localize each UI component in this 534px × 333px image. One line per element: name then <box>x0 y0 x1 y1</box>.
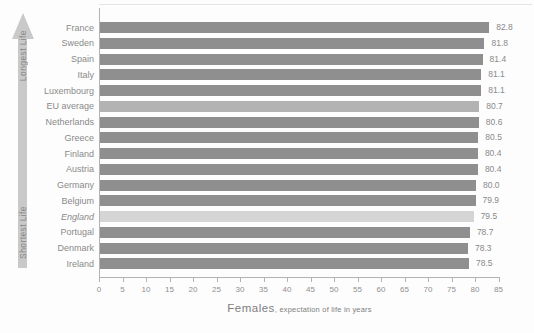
bar <box>100 195 476 206</box>
bar <box>100 132 478 143</box>
bar <box>100 101 479 112</box>
value-label: 79.5 <box>481 211 498 222</box>
x-axis-line <box>99 277 500 278</box>
x-tick-mark <box>146 277 147 282</box>
x-tick-mark <box>123 277 124 282</box>
x-tick-mark <box>405 277 406 282</box>
category-label: Austria <box>34 163 94 175</box>
x-tick-mark <box>381 277 382 282</box>
x-tick-label: 5 <box>111 285 135 294</box>
x-axis-title-sub: , expectation of life in years <box>275 305 372 314</box>
category-label: Spain <box>34 53 94 65</box>
x-tick-mark <box>217 277 218 282</box>
category-label: Ireland <box>34 258 94 270</box>
x-tick-mark <box>499 277 500 282</box>
x-tick-mark <box>311 277 312 282</box>
x-tick-label: 55 <box>346 285 370 294</box>
value-label: 80.6 <box>486 117 503 128</box>
bar <box>100 258 469 269</box>
x-tick-label: 40 <box>275 285 299 294</box>
x-tick-label: 70 <box>416 285 440 294</box>
value-label: 81.1 <box>488 69 505 80</box>
category-label: England <box>34 211 94 223</box>
bar <box>100 148 478 159</box>
value-label: 81.4 <box>490 54 507 65</box>
x-axis-title: Females, expectation of life in years <box>99 298 500 316</box>
x-tick-mark <box>170 277 171 282</box>
x-tick-label: 60 <box>369 285 393 294</box>
category-label: France <box>34 22 94 34</box>
bar <box>100 85 481 96</box>
bar <box>100 54 483 65</box>
bar <box>100 22 489 33</box>
x-tick-mark <box>193 277 194 282</box>
x-tick-label: 80 <box>463 285 487 294</box>
bar <box>100 243 468 254</box>
longest-life-label: Longest Life <box>18 30 28 81</box>
life-expectancy-bar-chart: Longest Life Shortest Life France82.8Swe… <box>0 0 534 333</box>
category-label: Belgium <box>34 195 94 207</box>
value-label: 78.3 <box>475 243 492 254</box>
bar <box>100 227 470 238</box>
bar <box>100 38 484 49</box>
category-label: Germany <box>34 179 94 191</box>
value-label: 80.7 <box>486 101 503 112</box>
category-label: Netherlands <box>34 116 94 128</box>
value-label: 80.0 <box>483 180 500 191</box>
plot-top-border <box>99 4 532 5</box>
category-label: Luxembourg <box>34 85 94 97</box>
bar <box>100 211 474 222</box>
x-tick-mark <box>452 277 453 282</box>
x-axis-title-main: Females <box>227 302 275 314</box>
category-label: EU average <box>34 100 94 112</box>
category-label: Denmark <box>34 242 94 254</box>
value-label: 80.4 <box>485 164 502 175</box>
value-label: 81.1 <box>488 85 505 96</box>
category-label: Greece <box>34 132 94 144</box>
x-tick-label: 85 <box>487 285 511 294</box>
value-label: 81.8 <box>491 38 508 49</box>
x-tick-mark <box>428 277 429 282</box>
x-tick-label: 30 <box>228 285 252 294</box>
value-label: 80.5 <box>485 132 502 143</box>
x-tick-label: 45 <box>299 285 323 294</box>
x-tick-mark <box>358 277 359 282</box>
x-tick-label: 10 <box>134 285 158 294</box>
x-tick-label: 20 <box>181 285 205 294</box>
value-label: 78.7 <box>477 227 494 238</box>
shortest-life-label: Shortest Life <box>18 206 28 259</box>
x-tick-mark <box>287 277 288 282</box>
x-tick-label: 50 <box>322 285 346 294</box>
bar <box>100 164 478 175</box>
value-label: 78.5 <box>476 258 493 269</box>
x-tick-label: 65 <box>393 285 417 294</box>
x-tick-mark <box>334 277 335 282</box>
category-label: Sweden <box>34 37 94 49</box>
category-label: Finland <box>34 148 94 160</box>
value-label: 79.9 <box>483 195 500 206</box>
bar <box>100 180 476 191</box>
category-label: Portugal <box>34 226 94 238</box>
x-tick-mark <box>99 277 100 282</box>
x-tick-mark <box>264 277 265 282</box>
x-tick-mark <box>240 277 241 282</box>
category-label: Italy <box>34 69 94 81</box>
bar <box>100 69 481 80</box>
x-tick-label: 25 <box>205 285 229 294</box>
x-tick-label: 15 <box>158 285 182 294</box>
x-tick-mark <box>475 277 476 282</box>
value-label: 80.4 <box>485 148 502 159</box>
value-label: 82.8 <box>496 22 513 33</box>
x-tick-label: 0 <box>87 285 111 294</box>
x-tick-label: 75 <box>440 285 464 294</box>
x-tick-label: 35 <box>252 285 276 294</box>
bar <box>100 117 479 128</box>
